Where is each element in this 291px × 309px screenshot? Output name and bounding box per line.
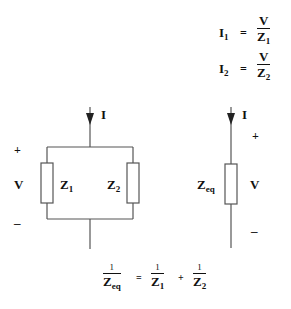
parallel-plus-label: +: [14, 144, 21, 156]
parallel-minus-label: –: [14, 216, 21, 229]
zeq-equals: =: [136, 273, 142, 283]
eq-i1-lhs: I1: [219, 26, 229, 39]
zeq-term-1: 1 Zeq: [103, 263, 121, 288]
eq-i2-lhs: I2: [219, 62, 229, 75]
equivalent-current-label: I: [242, 108, 247, 121]
eq-i1-fraction: V Z1: [257, 14, 270, 43]
eq-i1-equals: =: [240, 27, 247, 39]
equivalent-voltage-label: V: [250, 178, 259, 191]
circuit-wiring: [0, 0, 291, 309]
equivalent-plus-label: +: [252, 130, 259, 142]
zeq-term-3: 1 Z2: [193, 263, 206, 288]
parallel-current-label: I: [101, 108, 106, 121]
eq-i2-fraction: V Z2: [257, 50, 270, 79]
zeq-term-2: 1 Z1: [151, 263, 164, 288]
arrow-down-icon: [227, 113, 235, 125]
diagram-canvas: I1 = V Z1 I2 = V Z2 I + V – Z1 Z2 I + V …: [0, 0, 291, 309]
z1-label: Z1: [60, 178, 73, 191]
parallel-voltage-label: V: [14, 178, 23, 191]
z2-label: Z2: [107, 178, 120, 191]
eq-i2-equals: =: [240, 63, 247, 75]
equivalent-minus-label: –: [251, 224, 258, 237]
zeq-label: Zeq: [197, 178, 215, 191]
zeq-plus: +: [178, 273, 184, 283]
arrow-down-icon: [86, 113, 94, 125]
